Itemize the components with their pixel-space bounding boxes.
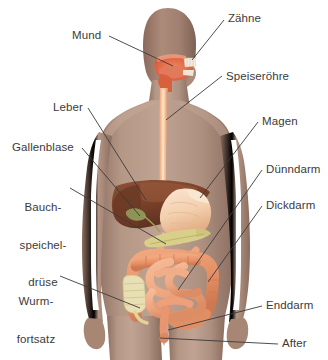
label-magen: Magen [262, 115, 298, 128]
label-zaehne: Zähne [228, 12, 261, 25]
label-wurmfortsatz: Wurm- fortsatz [8, 270, 64, 358]
left-leg [107, 316, 162, 360]
label-wurmfortsatz-line1: Wurm- [8, 295, 64, 308]
label-wurmfortsatz-line2: fortsatz [8, 333, 64, 346]
label-bauchspeicheldruese-line1: Bauch- [14, 201, 72, 214]
right-hand [227, 318, 249, 349]
label-enddarm: Enddarm [266, 299, 313, 312]
label-gallenblase: Gallenblase [12, 141, 74, 154]
label-bauchspeicheldruese-line2: speichel- [14, 239, 72, 252]
lower-teeth [183, 70, 194, 76]
organs [112, 54, 219, 343]
rectum [164, 310, 166, 334]
label-dickdarm: Dickdarm [266, 199, 315, 212]
left-hand [84, 318, 106, 349]
label-mund: Mund [72, 29, 101, 42]
label-duenndarm: Dünndarm [266, 163, 321, 176]
leader-zaehne [192, 20, 224, 60]
label-speiseroehre: Speiseröhre [226, 70, 289, 83]
label-after: After [282, 337, 307, 350]
label-leber: Leber [53, 101, 83, 114]
